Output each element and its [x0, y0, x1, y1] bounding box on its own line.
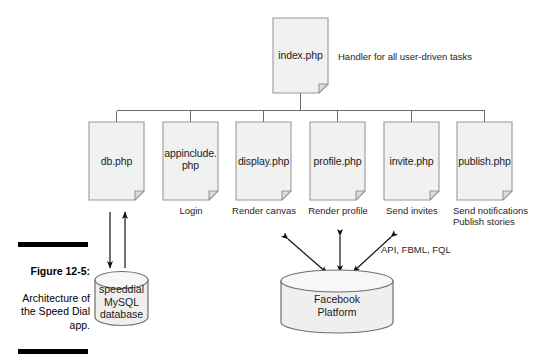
flow-db-to-mysql — [110, 212, 125, 268]
node-profile-php-body — [310, 122, 365, 200]
node-invite-php-body — [384, 122, 439, 200]
node-publish-php-foldcorner — [503, 191, 512, 200]
cylinder-mysql-top — [95, 272, 148, 289]
node-profile-php — [310, 122, 365, 200]
node-db-php-foldcorner — [135, 191, 144, 200]
node-display-php — [236, 122, 291, 200]
caption-rule-bottom — [18, 349, 88, 354]
architecture-diagram: index.php Handler for all user-driven ta… — [0, 0, 543, 354]
node-display-php-foldcorner — [282, 191, 291, 200]
cylinder-facebook-platform — [281, 270, 393, 333]
node-appinclude-php-foldcorner — [209, 191, 218, 200]
cylinder-facebook-top — [281, 270, 393, 292]
arrow-display-facebook — [288, 239, 327, 273]
root-note: Handler for all user-driven tasks — [338, 51, 508, 62]
note-invite-php: Send invites — [380, 205, 444, 216]
node-display-php-body — [236, 122, 291, 200]
node-publish-php-body — [457, 122, 512, 200]
note-appinclude-php: Login — [164, 205, 218, 216]
caption-body: Architecture of the Speed Dial app. — [18, 292, 90, 333]
figure-caption: Figure 12-5: Architecture of the Speed D… — [18, 242, 90, 354]
node-index-php — [273, 18, 328, 93]
caption-title: Figure 12-5: — [18, 265, 90, 279]
flow-app-to-facebook — [288, 236, 391, 273]
node-appinclude-php-body — [163, 122, 218, 200]
api-protocols-label: API, FBML, FQL — [381, 244, 491, 255]
node-db-php-body — [89, 122, 144, 200]
cylinder-mysql-database — [95, 272, 148, 326]
node-invite-php-foldcorner — [430, 191, 439, 200]
node-index-php-body — [273, 18, 328, 93]
tree-connectors — [117, 93, 485, 122]
node-appinclude-php — [163, 122, 218, 200]
note-display-php: Render canvas — [226, 205, 302, 216]
note-profile-php: Render profile — [302, 205, 374, 216]
node-db-php — [89, 122, 144, 200]
node-profile-php-foldcorner — [356, 191, 365, 200]
node-publish-php — [457, 122, 512, 200]
node-invite-php — [384, 122, 439, 200]
note-publish-php: Send notifications Publish stories — [453, 205, 543, 227]
caption-text: Figure 12-5: Architecture of the Speed D… — [18, 247, 90, 349]
node-index-php-foldcorner — [319, 84, 328, 93]
